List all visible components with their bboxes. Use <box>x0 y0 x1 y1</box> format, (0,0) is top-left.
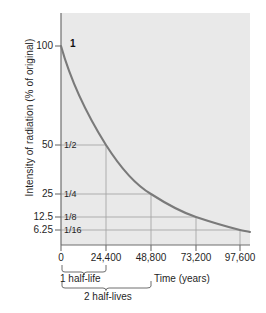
x-tick-label-48800: 48,800 <box>126 252 176 263</box>
x-tick-label-73200: 73,200 <box>171 252 221 263</box>
y-tick-label-50: 50 <box>12 139 53 150</box>
fraction-label-one-sixteenth: 1/16 <box>64 225 82 235</box>
x-axis-title: Time (years) <box>154 273 210 284</box>
plot-background <box>61 13 250 245</box>
y-tick-label-100: 100 <box>12 40 53 51</box>
x-axis-ticks <box>61 245 240 251</box>
y-axis-ticks <box>55 46 61 230</box>
fraction-label-one-eighth: 1/8 <box>64 212 77 222</box>
curve-start-label: 1 <box>70 38 76 49</box>
half-life-decay-chart: Intensity of radiation (% of original) 1… <box>0 0 266 313</box>
y-tick-label-6-25: 6.25 <box>12 224 53 235</box>
x-tick-label-97600: 97,600 <box>215 252 265 263</box>
fraction-label-one-fourth: 1/4 <box>64 189 77 199</box>
x-tick-label-0: 0 <box>41 252 81 263</box>
fraction-label-one-half: 1/2 <box>64 140 77 150</box>
y-tick-label-25: 25 <box>12 188 53 199</box>
y-tick-label-12-5: 12.5 <box>12 211 53 222</box>
x-tick-label-24400: 24,400 <box>81 252 131 263</box>
bracket-label-one-half-life: 1 half-life <box>60 273 101 284</box>
bracket-label-two-half-lives: 2 half-lives <box>84 291 132 302</box>
